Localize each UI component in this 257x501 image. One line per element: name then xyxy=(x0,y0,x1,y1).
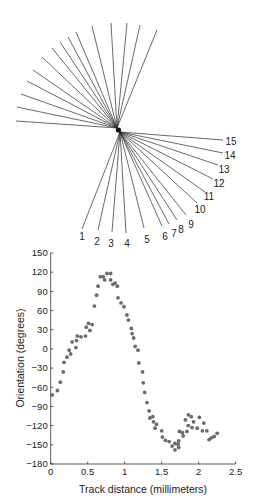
data-point xyxy=(88,329,92,333)
data-point xyxy=(75,339,79,343)
data-point xyxy=(190,426,194,430)
data-point xyxy=(58,380,62,384)
data-point xyxy=(90,323,94,327)
x-tick-label: 0.5 xyxy=(81,466,94,477)
data-point xyxy=(198,415,202,419)
data-point xyxy=(84,325,88,329)
y-tick-label: 120 xyxy=(32,266,48,277)
y-tick-label: 60 xyxy=(37,305,48,316)
data-point xyxy=(192,420,196,424)
data-point xyxy=(195,426,199,430)
data-point xyxy=(87,321,91,325)
data-point xyxy=(181,434,185,438)
data-point xyxy=(145,401,149,405)
data-point xyxy=(95,293,99,297)
data-point xyxy=(170,444,174,448)
y-tick-label: −120 xyxy=(26,420,47,431)
figure: 123456789101112131415 1501209060300−30−6… xyxy=(0,0,257,501)
data-point xyxy=(186,424,190,428)
data-point xyxy=(70,340,74,344)
data-point xyxy=(115,284,119,288)
data-point xyxy=(105,272,109,276)
data-point xyxy=(151,415,155,419)
y-tick-label: −60 xyxy=(32,382,48,393)
data-point xyxy=(75,334,79,338)
data-point xyxy=(173,448,177,452)
y-tick-label: −150 xyxy=(26,439,47,450)
y-axis-title: Orientation (degrees) xyxy=(14,308,26,407)
data-point xyxy=(215,431,219,435)
orientation-scatter-plot: 1501209060300−30−60−90−120−150−180 00.51… xyxy=(0,0,257,501)
y-tick-label: −180 xyxy=(26,458,47,469)
y-tick-label: −90 xyxy=(32,401,48,412)
data-point xyxy=(153,426,157,430)
data-point xyxy=(176,442,180,446)
data-point xyxy=(109,272,113,276)
data-point xyxy=(103,278,107,282)
data-point xyxy=(116,296,120,300)
data-point xyxy=(67,348,71,352)
data-point xyxy=(79,335,83,339)
data-point xyxy=(126,318,130,322)
data-point xyxy=(122,305,126,309)
data-point xyxy=(141,381,145,385)
data-point xyxy=(143,391,147,395)
data-point xyxy=(65,355,69,359)
data-point xyxy=(93,304,97,308)
data-point xyxy=(167,440,171,444)
data-point xyxy=(201,429,205,433)
data-point xyxy=(185,430,189,434)
data-point xyxy=(160,429,164,433)
data-point xyxy=(61,370,65,374)
data-point xyxy=(69,352,73,356)
y-tick-label: 150 xyxy=(32,247,48,258)
data-point xyxy=(164,438,168,442)
data-point xyxy=(184,418,188,422)
y-axis-ticks: 1501209060300−30−60−90−120−150−180 xyxy=(26,247,53,469)
data-point xyxy=(136,348,140,352)
data-point xyxy=(50,393,54,397)
data-point xyxy=(147,409,151,413)
y-tick-label: −30 xyxy=(32,362,48,373)
x-tick-label: 0 xyxy=(48,466,53,477)
data-point xyxy=(177,446,181,450)
data-point xyxy=(177,439,181,443)
x-tick-label: 1.5 xyxy=(155,466,168,477)
data-point xyxy=(137,361,141,365)
data-point xyxy=(189,415,193,419)
x-tick-label: 2.5 xyxy=(229,466,242,477)
data-point xyxy=(109,278,113,282)
data-point xyxy=(130,327,134,331)
x-tick-label: 1 xyxy=(122,466,127,477)
data-point xyxy=(119,301,123,305)
data-point xyxy=(155,423,159,427)
y-tick-label: 30 xyxy=(37,324,48,335)
data-point xyxy=(161,435,165,439)
data-point xyxy=(74,346,78,350)
data-point xyxy=(205,429,209,433)
data-point xyxy=(152,420,156,424)
data-points xyxy=(50,272,219,452)
data-point xyxy=(132,336,136,340)
data-point xyxy=(62,360,66,364)
y-tick-label: 0 xyxy=(42,343,47,354)
data-point xyxy=(125,313,129,317)
x-tick-label: 2 xyxy=(196,466,201,477)
data-point xyxy=(141,370,145,374)
data-point xyxy=(181,431,185,435)
x-axis-title: Track distance (millimeters) xyxy=(79,483,207,495)
data-point xyxy=(202,421,206,425)
data-point xyxy=(133,345,137,349)
data-point xyxy=(113,281,117,285)
data-point xyxy=(56,389,60,393)
data-point xyxy=(96,284,100,288)
data-point xyxy=(84,334,88,338)
data-point xyxy=(212,435,216,439)
y-tick-label: 90 xyxy=(37,286,48,297)
data-point xyxy=(130,332,134,336)
